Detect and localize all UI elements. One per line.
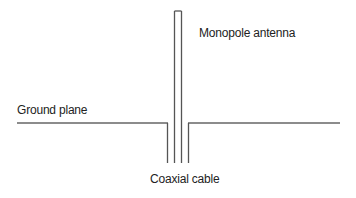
monopole-antenna-diagram <box>0 0 356 198</box>
antenna-label: Monopole antenna <box>199 26 295 40</box>
ground-plane-label: Ground plane <box>17 103 87 117</box>
antenna-element <box>175 11 182 163</box>
coaxial-cable-label: Coaxial cable <box>150 172 219 186</box>
coaxial-cable <box>168 123 189 163</box>
